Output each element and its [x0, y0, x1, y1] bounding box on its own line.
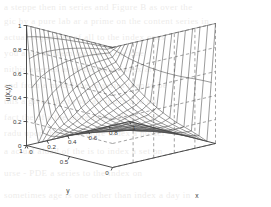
x-tick-label: 0: [29, 148, 33, 155]
z-tick-label: 1: [18, 22, 22, 29]
z-axis-label: u(x,y): [4, 85, 12, 101]
x-tick-label: 0.2: [47, 143, 56, 150]
z-tick-label: 0.2: [13, 118, 22, 125]
z-tick-label: 0.6: [13, 70, 22, 77]
y-tick-label: 1: [19, 147, 23, 154]
x-tick-label: 0.8: [109, 129, 118, 136]
z-tick-label: 0.8: [13, 46, 22, 53]
x-tick-label: 0.6: [88, 134, 97, 141]
z-tick-label: 0.4: [13, 94, 22, 101]
x-tick-label: 0.4: [68, 138, 77, 145]
surface-plot-figure: 00.20.40.60.8100.20.40.60.8110.50 xyu(x,…: [0, 0, 271, 207]
x-tick-label: 1: [132, 124, 136, 131]
y-tick-label: 0: [105, 169, 109, 176]
y-tick-label: 0.5: [60, 158, 69, 165]
